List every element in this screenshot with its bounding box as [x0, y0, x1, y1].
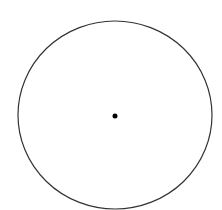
- circle-diagram: [0, 0, 222, 210]
- diagram-canvas: [0, 0, 222, 210]
- center-point: [113, 114, 118, 119]
